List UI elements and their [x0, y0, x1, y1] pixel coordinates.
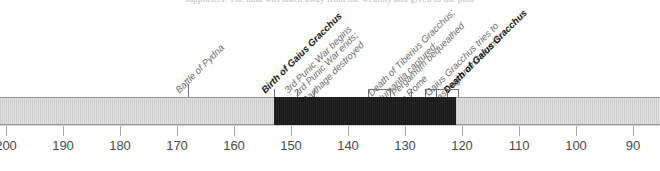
- axis-tick: [120, 126, 121, 136]
- event-label-line1: 3rd Punic War ends;: [291, 30, 360, 99]
- axis-tick-label: 100: [565, 138, 587, 153]
- axis-tick: [462, 126, 463, 136]
- event-bracket-stem: [425, 89, 426, 97]
- event-bracket: [368, 89, 390, 90]
- event-bracket-stem: [458, 89, 459, 97]
- axis-line: [0, 125, 660, 126]
- axis-tick: [177, 126, 178, 136]
- event-label: Battle of Pydna: [174, 43, 227, 96]
- event-label-line1: Battle of Pydna: [173, 42, 226, 95]
- event-leader-line: [274, 89, 275, 97]
- event-leader-line: [188, 85, 189, 97]
- axis-tick: [519, 126, 520, 136]
- axis-tick-label: 130: [394, 138, 416, 153]
- axis-tick-label: 90: [626, 138, 640, 153]
- timeline-band-lifetime-of-gaius-gracchus: [274, 97, 456, 125]
- axis-tick-label: 180: [109, 138, 131, 153]
- event-bracket-stem: [368, 89, 369, 97]
- axis-tick: [63, 126, 64, 136]
- event-bracket-stem: [390, 89, 391, 97]
- event-bracket-stem: [447, 89, 448, 97]
- axis-tick: [633, 126, 634, 136]
- axis-tick-label: 140: [337, 138, 359, 153]
- axis-tick-label: 160: [223, 138, 245, 153]
- axis-tick: [576, 126, 577, 136]
- timeline-figure: supporters. The land was taken away from…: [0, 0, 660, 171]
- axis-tick: [234, 126, 235, 136]
- axis-tick: [348, 126, 349, 136]
- axis-tick-label: 150: [280, 138, 302, 153]
- axis-tick: [405, 126, 406, 136]
- axis-tick-label: 190: [52, 138, 74, 153]
- axis-tick: [6, 126, 7, 136]
- axis-tick-label: 120: [451, 138, 473, 153]
- event-bracket-stem: [436, 89, 437, 97]
- axis-tick-label: 170: [166, 138, 188, 153]
- axis-tick: [291, 126, 292, 136]
- axis-tick-label: 200: [0, 138, 17, 153]
- axis-tick-label: 110: [509, 138, 530, 153]
- clipped-paragraph-text: supporters. The land was taken away from…: [0, 0, 660, 4]
- event-bracket: [436, 89, 458, 90]
